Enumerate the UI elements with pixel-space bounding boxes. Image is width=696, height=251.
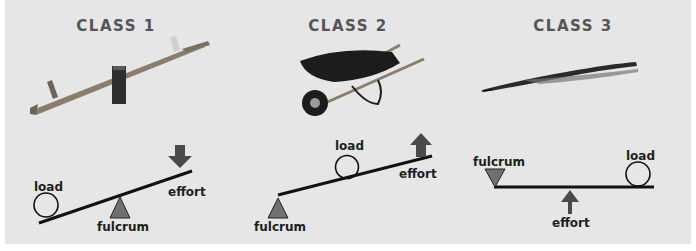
wheelbarrow-illustration xyxy=(300,45,424,116)
class-1-effort-label: effort xyxy=(168,185,206,199)
class-3-fulcrum-label: fulcrum xyxy=(473,155,525,169)
effort-arrow-up-icon xyxy=(410,133,432,157)
tweezers-illustration xyxy=(481,62,638,92)
seesaw-illustration xyxy=(30,36,210,115)
load-circle-icon xyxy=(34,193,58,217)
class-3-diagram xyxy=(485,162,654,214)
class-2-load-label: load xyxy=(335,139,364,153)
class-1-fulcrum-label: fulcrum xyxy=(97,220,149,234)
class-2-fulcrum-label: fulcrum xyxy=(254,220,306,234)
class-3-load-label: load xyxy=(626,149,655,163)
effort-arrow-down-icon xyxy=(168,145,192,168)
lever-diagrams xyxy=(0,0,696,251)
fulcrum-triangle-inverted-icon xyxy=(485,169,505,187)
load-circle-icon xyxy=(626,162,650,186)
effort-arrow-up-icon xyxy=(561,190,579,214)
fulcrum-triangle-icon xyxy=(110,197,130,218)
class-3-effort-label: effort xyxy=(552,216,590,230)
load-circle-icon xyxy=(336,156,359,179)
class-1-load-label: load xyxy=(34,180,63,194)
fulcrum-triangle-icon xyxy=(268,198,288,218)
class-2-effort-label: effort xyxy=(399,167,437,181)
